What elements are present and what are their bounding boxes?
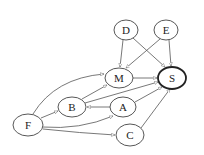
edge-e-m <box>126 39 160 68</box>
edge-d-s <box>133 38 165 67</box>
node-label-s: S <box>169 72 175 84</box>
node-label-e: E <box>163 24 170 36</box>
node-f[interactable]: F <box>13 114 43 136</box>
edge-b-m <box>82 85 107 99</box>
edge-f-a <box>42 116 113 128</box>
node-a[interactable]: A <box>110 97 136 117</box>
node-m[interactable]: M <box>105 68 133 88</box>
edge-c-s <box>141 89 170 128</box>
node-d[interactable]: D <box>114 20 138 40</box>
nodes: D E M S B A F C <box>13 20 186 146</box>
node-label-f: F <box>25 119 31 131</box>
edge-f-c <box>43 129 115 135</box>
edge-f-b <box>41 111 58 118</box>
node-label-d: D <box>122 24 130 36</box>
node-label-c: C <box>126 129 133 141</box>
edge-a-s <box>135 87 162 102</box>
edge-e-s <box>169 40 171 66</box>
node-c[interactable]: C <box>116 124 144 146</box>
node-label-b: B <box>68 101 75 113</box>
node-s[interactable]: S <box>158 67 186 89</box>
edge-d-m <box>120 40 123 67</box>
node-e[interactable]: E <box>154 20 178 40</box>
node-label-a: A <box>119 101 127 113</box>
graph-canvas: D E M S B A F C <box>0 0 204 155</box>
node-b[interactable]: B <box>58 97 86 117</box>
node-label-m: M <box>114 72 124 84</box>
edges <box>33 38 171 135</box>
